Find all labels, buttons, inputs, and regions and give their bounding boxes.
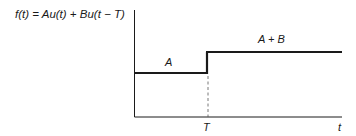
equation-label: f(t) = Au(t) + Bu(t − T) bbox=[15, 9, 125, 21]
x-tick-label-t: T bbox=[203, 122, 210, 133]
segment-label-a: A bbox=[165, 57, 172, 68]
segment-label-a-plus-b: A + B bbox=[258, 34, 285, 45]
x-axis-label: t bbox=[338, 122, 341, 133]
